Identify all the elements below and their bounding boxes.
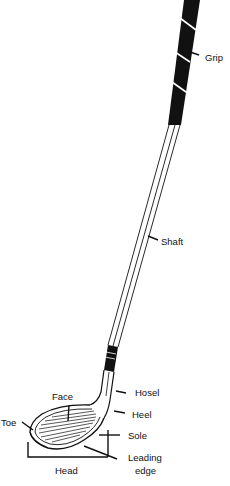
label-hosel: Hosel xyxy=(135,387,159,398)
club-head xyxy=(30,405,104,449)
golf-club-diagram: Grip Shaft Hosel Heel Face Toe Sole Lead… xyxy=(0,0,230,486)
label-sole: Sole xyxy=(128,430,147,441)
label-shaft: Shaft xyxy=(161,236,184,247)
label-toe: Toe xyxy=(1,417,16,428)
grip xyxy=(168,0,200,125)
hosel-leader xyxy=(116,391,126,393)
label-face: Face xyxy=(52,391,73,402)
label-grip: Grip xyxy=(205,52,223,63)
heel-leader xyxy=(114,411,125,413)
hosel xyxy=(90,345,118,418)
label-leading-edge-2: edge xyxy=(135,465,156,476)
shaft-leader xyxy=(148,236,158,240)
label-leading-edge-1: Leading xyxy=(128,452,162,463)
label-head: Head xyxy=(55,465,78,476)
face-leader xyxy=(68,405,69,421)
label-heel: Heel xyxy=(132,409,152,420)
